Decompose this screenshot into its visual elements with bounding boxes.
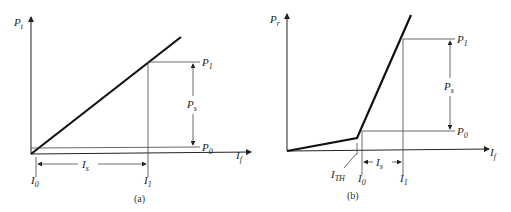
x-axis — [287, 149, 489, 151]
is-label: Is — [375, 156, 383, 171]
p1-label: P1 — [201, 56, 213, 71]
panel-b: Pr If P1 P0 Ps Is ITH I0 I1 (b) — [269, 13, 498, 202]
caption-b: (b) — [347, 190, 359, 202]
p0-line — [31, 147, 200, 148]
i1-label: I1 — [143, 174, 152, 189]
output-curve — [31, 37, 181, 154]
i1-label: I1 — [399, 172, 408, 187]
is-label: Is — [81, 158, 89, 173]
p0-label: P0 — [201, 141, 213, 156]
x-axis-label: If — [489, 146, 498, 161]
y-axis-label: Pr — [269, 13, 281, 28]
ps-label: Ps — [443, 80, 454, 95]
p0-label: P0 — [456, 125, 468, 140]
p1-label: P1 — [456, 33, 468, 48]
x-axis-label: If — [235, 149, 244, 164]
x-axis — [31, 152, 251, 154]
y-axis-label: Pt — [13, 16, 24, 31]
i0-label: I0 — [357, 172, 366, 187]
ps-label: Ps — [186, 98, 197, 113]
panel-a: Pt If P1 P0 Ps Is I0 I1 (a) — [13, 16, 251, 205]
diagram-canvas: Pt If P1 P0 Ps Is I0 I1 (a) Pr If P1 P0 … — [0, 0, 511, 212]
ith-label: ITH — [330, 168, 346, 183]
i0-label: I0 — [30, 174, 39, 189]
ith-pointer — [344, 154, 356, 168]
caption-a: (a) — [134, 193, 145, 205]
